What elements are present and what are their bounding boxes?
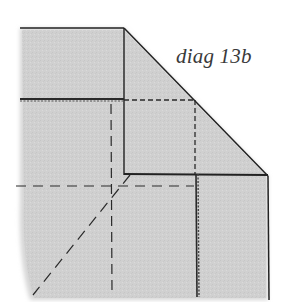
diagram-canvas: diag 13b [0, 0, 281, 302]
right-edge-line [268, 176, 269, 300]
diagram-label: diag 13b [176, 44, 252, 69]
